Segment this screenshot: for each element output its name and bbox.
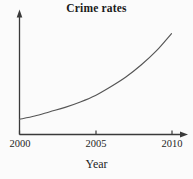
x-tick-label-2010: 2010 <box>162 138 183 149</box>
crime-rate-curve <box>20 34 172 120</box>
x-axis-title: Year <box>0 157 193 172</box>
x-tick-label-2005: 2005 <box>86 138 107 149</box>
x-axis-arrowhead-icon <box>180 132 188 138</box>
x-tick-label-2000: 2000 <box>10 138 31 149</box>
crime-rates-chart-figure: Crime rates 2000 2005 2010 Year <box>0 0 193 179</box>
chart-title: Crime rates <box>0 2 193 14</box>
chart-plot-area <box>0 0 193 179</box>
